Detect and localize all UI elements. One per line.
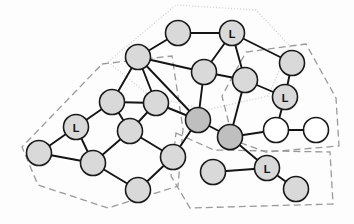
- node-circle[interactable]: [81, 151, 106, 176]
- node-circle[interactable]: [284, 177, 309, 202]
- graph-node[interactable]: [27, 141, 52, 166]
- cluster-boundary-bottom-dashed-region: [171, 133, 333, 208]
- node-circle[interactable]: [255, 156, 280, 181]
- node-circle[interactable]: [100, 90, 125, 115]
- node-circle[interactable]: [304, 118, 329, 143]
- graph-node[interactable]: [264, 118, 289, 143]
- node-circle[interactable]: [27, 141, 52, 166]
- graph-node-leader[interactable]: L: [273, 85, 298, 110]
- node-circle[interactable]: [161, 145, 186, 170]
- node-circle[interactable]: [264, 118, 289, 143]
- graph-node[interactable]: [100, 90, 125, 115]
- graph-node[interactable]: [81, 151, 106, 176]
- node-circle[interactable]: [144, 91, 169, 116]
- node-circle[interactable]: [218, 125, 243, 150]
- graph-node[interactable]: [126, 45, 151, 70]
- node-circle[interactable]: [280, 51, 305, 76]
- graph-node[interactable]: [201, 160, 226, 185]
- graph-node[interactable]: [233, 68, 258, 93]
- graph-node[interactable]: [144, 91, 169, 116]
- node-circle[interactable]: [201, 160, 226, 185]
- node-circle[interactable]: [64, 115, 89, 140]
- graph-node[interactable]: [304, 118, 329, 143]
- node-circle[interactable]: [186, 108, 211, 133]
- node-circle[interactable]: [233, 68, 258, 93]
- graph-node-leader[interactable]: L: [220, 21, 245, 46]
- node-circle[interactable]: [166, 21, 191, 46]
- graph-node-leader[interactable]: L: [64, 115, 89, 140]
- network-diagram-canvas: LLLL: [0, 0, 354, 224]
- graph-node[interactable]: [284, 177, 309, 202]
- graph-node[interactable]: [118, 119, 143, 144]
- graph-svg: LLLL: [0, 0, 354, 224]
- graph-node[interactable]: [161, 145, 186, 170]
- node-circle[interactable]: [273, 85, 298, 110]
- graph-node[interactable]: [126, 178, 151, 203]
- graph-node[interactable]: [280, 51, 305, 76]
- node-circle[interactable]: [118, 119, 143, 144]
- graph-node[interactable]: [186, 108, 211, 133]
- graph-node[interactable]: [218, 125, 243, 150]
- node-circle[interactable]: [126, 45, 151, 70]
- graph-node[interactable]: [192, 60, 217, 85]
- graph-node-leader[interactable]: L: [255, 156, 280, 181]
- graph-node[interactable]: [166, 21, 191, 46]
- node-circle[interactable]: [126, 178, 151, 203]
- node-circle[interactable]: [220, 21, 245, 46]
- node-circle[interactable]: [192, 60, 217, 85]
